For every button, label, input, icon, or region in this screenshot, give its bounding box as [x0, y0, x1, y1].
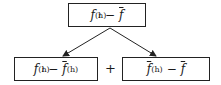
subscript: i [42, 65, 45, 74]
arrow-right [110, 28, 156, 56]
f-bar-symbol: f [181, 62, 185, 76]
minus-sign: − [105, 8, 115, 22]
minus-sign: − [167, 62, 177, 76]
superscript: (h) [151, 65, 162, 74]
node-top: f(h)i − f [68, 3, 146, 27]
node-bottom-right: f(h) − f [122, 57, 210, 81]
subscript: i [98, 11, 101, 20]
node-bottom-left: f(h)i − f(h) [14, 57, 98, 81]
f-bar-symbol: f [119, 8, 123, 22]
arrow-left [63, 28, 110, 56]
superscript: (h) [67, 65, 78, 74]
minus-sign: − [48, 62, 58, 76]
plus-operator: + [105, 61, 116, 76]
